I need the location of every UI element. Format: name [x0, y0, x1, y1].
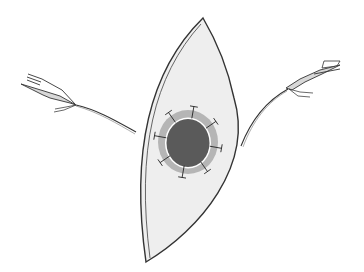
right-needle-holder [241, 61, 340, 147]
right-suture-thread-2 [243, 91, 287, 147]
right-thread-stub [289, 89, 313, 93]
right-suture-thread [241, 89, 288, 146]
left-thread-stub [55, 105, 76, 109]
wound [158, 110, 218, 174]
surgical-diagram [0, 0, 364, 272]
left-needle-holder [21, 74, 136, 134]
circular-wound-defect [167, 119, 210, 167]
illustration [0, 0, 364, 272]
left-instrument-body [21, 84, 76, 105]
left-suture-thread-2 [76, 106, 135, 134]
right-instrument-body [286, 65, 340, 90]
